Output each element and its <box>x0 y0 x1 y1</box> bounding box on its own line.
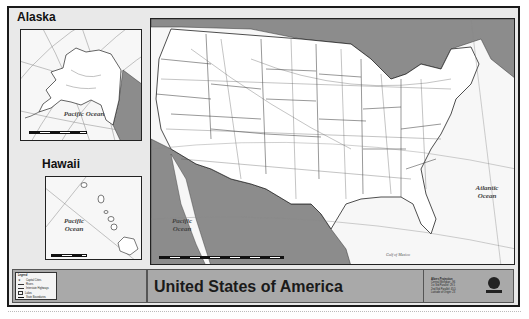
agency-seal-icon <box>488 277 500 289</box>
page-divider <box>8 311 521 312</box>
title-bar: United States of America Albers Projecti… <box>147 269 514 303</box>
main-scale-bar <box>159 256 284 259</box>
pacific-ocean-label: Pacific Ocean <box>165 217 199 233</box>
highway-line-icon <box>18 288 24 289</box>
alaska-map-graphic <box>21 30 142 141</box>
atlantic-ocean-label: Atlantic Ocean <box>469 184 505 200</box>
state-boundary-icon <box>18 297 24 298</box>
agency-seal-banner <box>486 290 502 293</box>
hawaii-ocean-label: Pacific Ocean <box>56 217 92 233</box>
star-icon: ★ <box>18 279 24 282</box>
gulf-of-mexico-label: Gulf of Mexico <box>386 252 410 257</box>
hawaii-title: Hawaii <box>42 157 80 171</box>
alaska-ocean-label: Pacific Ocean <box>59 110 109 118</box>
river-line-icon <box>18 284 24 285</box>
projection-info: Albers Projection Central Meridian: -96 … <box>431 278 461 294</box>
alaska-scale-bar <box>29 131 87 134</box>
lake-box-icon <box>18 291 23 295</box>
main-us-map: Pacific Ocean Atlantic Ocean Gulf of Mex… <box>150 18 515 265</box>
alaska-inset-map: Pacific Ocean <box>20 29 142 141</box>
legend-panel: Legend ★Capital Cities Rivers Interstate… <box>12 269 147 303</box>
projection-panel: Albers Projection Central Meridian: -96 … <box>423 270 515 302</box>
contiguous-us-graphic <box>151 19 515 265</box>
alaska-title: Alaska <box>17 10 56 24</box>
legend: Legend ★Capital Cities Rivers Interstate… <box>15 272 57 300</box>
hawaii-inset-map: Pacific Ocean <box>45 176 142 260</box>
legend-item: State Boundaries <box>18 296 54 300</box>
map-title: United States of America <box>154 278 343 296</box>
hawaii-scale-bar <box>51 254 87 257</box>
